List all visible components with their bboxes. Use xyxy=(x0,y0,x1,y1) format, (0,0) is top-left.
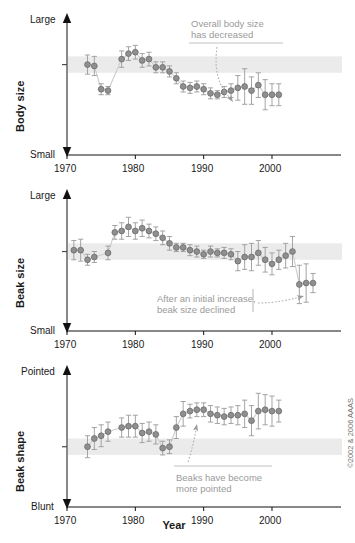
panel-beak-shape-plot xyxy=(0,352,348,543)
panel-body-size: Body size Large Small Overall body size … xyxy=(0,0,348,182)
copyright-notice: ©2002 & 2006 AAAS xyxy=(346,398,355,468)
panel-body-size-plot xyxy=(0,0,348,182)
xaxis-title: Year xyxy=(0,519,348,531)
panel-beak-size-plot xyxy=(0,176,348,358)
panel-beak-shape: Beak shape Pointed Blunt Beaks have beco… xyxy=(0,352,348,543)
panel-beak-size: Beak size Large Small After an initial i… xyxy=(0,176,348,358)
